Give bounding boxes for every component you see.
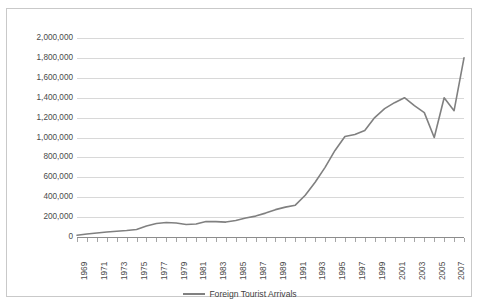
- y-axis-tick-label: 1,400,000: [9, 94, 73, 102]
- x-axis-labels: 1969197119731975197719791981198319851987…: [77, 243, 464, 283]
- x-axis-tick-label: 2005: [438, 262, 447, 280]
- x-axis-tick: [454, 238, 455, 242]
- x-axis-tick: [196, 238, 197, 242]
- x-axis-tick: [335, 238, 336, 242]
- x-axis-tick: [365, 238, 366, 242]
- x-axis-tick-label: 1981: [199, 262, 208, 280]
- x-axis-tick-label: 1971: [100, 262, 109, 280]
- x-axis-tick: [146, 238, 147, 242]
- x-axis-tick: [375, 238, 376, 242]
- x-axis-tick: [315, 238, 316, 242]
- x-axis-tick-label: 1991: [299, 262, 308, 280]
- x-axis-tick: [275, 238, 276, 242]
- plot-area: [77, 38, 464, 237]
- y-axis-tick-label: 800,000: [9, 153, 73, 161]
- y-axis-tick-label: 1,800,000: [9, 54, 73, 62]
- x-axis-tick: [226, 238, 227, 242]
- y-axis-tick-label: 1,200,000: [9, 114, 73, 122]
- legend-line-swatch: [183, 293, 205, 295]
- y-axis-tick-label: 600,000: [9, 173, 73, 181]
- x-axis-tick: [464, 238, 465, 242]
- x-axis-tick-label: 1977: [160, 262, 169, 280]
- x-axis-tick: [216, 238, 217, 242]
- x-axis-tick: [127, 238, 128, 242]
- x-axis-tick: [236, 238, 237, 242]
- series-line-foreign-tourist-arrivals: [77, 38, 464, 237]
- x-axis-tick: [345, 238, 346, 242]
- y-axis-tick-label: 1,600,000: [9, 74, 73, 82]
- legend-label: Foreign Tourist Arrivals: [209, 289, 296, 299]
- y-axis-tick-label: 0: [9, 233, 73, 241]
- y-axis-tick-label: 2,000,000: [9, 34, 73, 42]
- x-axis-tick-label: 1985: [239, 262, 248, 280]
- chart-frame: 2,000,0001,800,0001,600,0001,400,0001,20…: [6, 8, 472, 297]
- x-axis-tick: [117, 238, 118, 242]
- x-axis-tick-label: 2003: [418, 262, 427, 280]
- x-axis-tick: [107, 238, 108, 242]
- x-axis-tick: [295, 238, 296, 242]
- x-axis-tick: [285, 238, 286, 242]
- x-axis-tick-label: 1993: [318, 262, 327, 280]
- x-axis-tick-label: 2007: [457, 262, 466, 280]
- x-axis-tick-label: 1995: [338, 262, 347, 280]
- x-axis-tick-label: 1973: [120, 262, 129, 280]
- x-axis-tick: [156, 238, 157, 242]
- x-axis-tick: [434, 238, 435, 242]
- x-axis-tick-label: 1987: [259, 262, 268, 280]
- x-axis-tick: [444, 238, 445, 242]
- x-axis-tick: [186, 238, 187, 242]
- x-axis-tick-label: 1969: [80, 262, 89, 280]
- x-axis-tick: [176, 238, 177, 242]
- x-axis-tick: [206, 238, 207, 242]
- x-axis-tick-label: 1989: [279, 262, 288, 280]
- x-axis-tick: [256, 238, 257, 242]
- x-axis-tick: [404, 238, 405, 242]
- x-axis-tick-label: 1999: [378, 262, 387, 280]
- x-axis-tick: [137, 238, 138, 242]
- y-axis-tick-label: 400,000: [9, 193, 73, 201]
- x-axis-tick: [246, 238, 247, 242]
- x-axis-tick: [395, 238, 396, 242]
- x-axis-tick: [77, 238, 78, 242]
- x-axis-tick: [424, 238, 425, 242]
- x-axis-tick: [385, 238, 386, 242]
- x-axis-tick-label: 1997: [358, 262, 367, 280]
- x-axis-tick: [414, 238, 415, 242]
- chart-legend: Foreign Tourist Arrivals: [7, 288, 473, 299]
- x-axis-tick: [97, 238, 98, 242]
- x-axis-tick: [87, 238, 88, 242]
- x-axis-tick: [166, 238, 167, 242]
- y-axis-tick-label: 200,000: [9, 213, 73, 221]
- y-axis-tick-label: 1,000,000: [9, 134, 73, 142]
- x-axis-tick: [325, 238, 326, 242]
- x-axis-tick-label: 2001: [398, 262, 407, 280]
- x-axis-tick: [266, 238, 267, 242]
- x-axis-tick: [305, 238, 306, 242]
- x-axis-tick-label: 1983: [219, 262, 228, 280]
- x-axis-tick: [355, 238, 356, 242]
- x-axis-ticks: [77, 238, 464, 242]
- y-axis-labels: 2,000,0001,800,0001,600,0001,400,0001,20…: [7, 9, 73, 269]
- x-axis-tick-label: 1979: [180, 262, 189, 280]
- x-axis-tick-label: 1975: [140, 262, 149, 280]
